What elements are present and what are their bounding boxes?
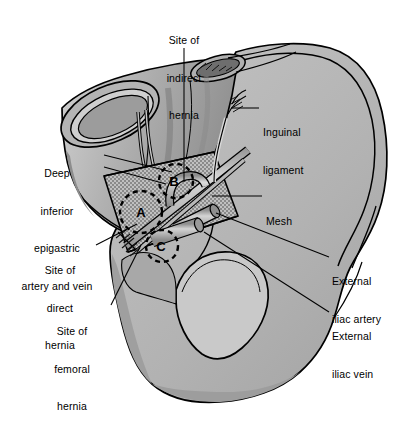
label-external-iliac-vein: External iliac vein <box>332 305 412 405</box>
site-marker-c-letter: C <box>156 239 166 254</box>
label-line: Site of <box>25 264 95 277</box>
label-line: Inguinal <box>263 126 343 139</box>
site-marker-b-letter: B <box>169 174 178 189</box>
label-line: indirect <box>147 72 221 85</box>
figure-canvas: A B C Site of indirect hernia Deep infer… <box>0 0 419 423</box>
label-site-of-femoral-hernia: Site of femoral hernia <box>35 300 109 423</box>
label-line: Site of <box>35 325 109 338</box>
label-line: External <box>332 330 412 343</box>
site-marker-a-letter: A <box>136 205 146 220</box>
label-line: Deep <box>10 167 104 180</box>
label-line: Site of <box>147 34 221 47</box>
label-line: hernia <box>147 109 221 122</box>
label-line: inferior <box>10 205 104 218</box>
label-inguinal-ligament: Inguinal ligament <box>263 101 343 201</box>
label-mesh: Mesh <box>266 190 312 253</box>
label-line: femoral <box>35 363 109 376</box>
label-line: iliac vein <box>332 368 412 381</box>
label-line: ligament <box>263 164 343 177</box>
label-site-of-indirect-hernia: Site of indirect hernia <box>147 9 221 147</box>
label-line: Mesh <box>266 215 312 228</box>
label-line: External <box>332 275 416 288</box>
label-line: hernia <box>35 400 109 413</box>
